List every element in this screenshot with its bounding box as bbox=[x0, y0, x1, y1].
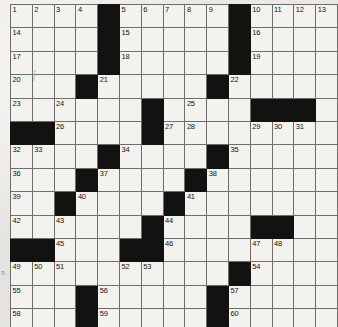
letter-cell[interactable] bbox=[54, 51, 76, 74]
letter-cell[interactable]: 45 bbox=[54, 238, 76, 261]
letter-cell[interactable] bbox=[163, 51, 185, 74]
letter-cell[interactable] bbox=[163, 28, 185, 51]
letter-cell[interactable] bbox=[207, 51, 229, 74]
letter-cell[interactable] bbox=[32, 215, 54, 238]
letter-cell[interactable] bbox=[54, 145, 76, 168]
letter-cell[interactable]: 28 bbox=[185, 121, 207, 144]
letter-cell[interactable]: 19 bbox=[250, 51, 272, 74]
letter-cell[interactable] bbox=[207, 121, 229, 144]
letter-cell[interactable] bbox=[32, 168, 54, 191]
letter-cell[interactable] bbox=[98, 98, 120, 121]
letter-cell[interactable]: 5 bbox=[119, 5, 141, 28]
letter-cell[interactable]: 11 bbox=[272, 5, 294, 28]
letter-cell[interactable]: 14 bbox=[11, 28, 33, 51]
letter-cell[interactable]: 50 bbox=[32, 262, 54, 285]
letter-cell[interactable] bbox=[316, 98, 338, 121]
letter-cell[interactable] bbox=[207, 98, 229, 121]
letter-cell[interactable] bbox=[32, 309, 54, 327]
letter-cell[interactable] bbox=[250, 285, 272, 308]
letter-cell[interactable]: 24 bbox=[54, 98, 76, 121]
letter-cell[interactable]: 20 bbox=[11, 75, 33, 98]
letter-cell[interactable]: 49 bbox=[11, 262, 33, 285]
letter-cell[interactable]: 56 bbox=[98, 285, 120, 308]
letter-cell[interactable] bbox=[119, 215, 141, 238]
letter-cell[interactable]: 18 bbox=[119, 51, 141, 74]
letter-cell[interactable]: 8 bbox=[185, 5, 207, 28]
letter-cell[interactable]: 55 bbox=[11, 285, 33, 308]
letter-cell[interactable]: 3 bbox=[54, 5, 76, 28]
letter-cell[interactable] bbox=[294, 262, 316, 285]
letter-cell[interactable] bbox=[185, 145, 207, 168]
letter-cell[interactable] bbox=[316, 75, 338, 98]
letter-cell[interactable] bbox=[119, 75, 141, 98]
letter-cell[interactable]: 42 bbox=[11, 215, 33, 238]
letter-cell[interactable] bbox=[163, 98, 185, 121]
letter-cell[interactable] bbox=[228, 121, 250, 144]
letter-cell[interactable]: 39 bbox=[11, 192, 33, 215]
letter-cell[interactable] bbox=[54, 75, 76, 98]
letter-cell[interactable]: 31 bbox=[294, 121, 316, 144]
letter-cell[interactable] bbox=[119, 309, 141, 327]
letter-cell[interactable] bbox=[316, 238, 338, 261]
letter-cell[interactable] bbox=[119, 121, 141, 144]
letter-cell[interactable] bbox=[316, 285, 338, 308]
letter-cell[interactable] bbox=[163, 262, 185, 285]
letter-cell[interactable] bbox=[54, 168, 76, 191]
letter-cell[interactable] bbox=[207, 215, 229, 238]
letter-cell[interactable]: 29 bbox=[250, 121, 272, 144]
letter-cell[interactable] bbox=[294, 168, 316, 191]
letter-cell[interactable] bbox=[163, 309, 185, 327]
letter-cell[interactable]: 26 bbox=[54, 121, 76, 144]
letter-cell[interactable]: 46 bbox=[163, 238, 185, 261]
letter-cell[interactable] bbox=[141, 28, 163, 51]
letter-cell[interactable] bbox=[163, 75, 185, 98]
letter-cell[interactable] bbox=[207, 28, 229, 51]
letter-cell[interactable]: 30 bbox=[272, 121, 294, 144]
letter-cell[interactable] bbox=[316, 51, 338, 74]
letter-cell[interactable] bbox=[294, 309, 316, 327]
letter-cell[interactable] bbox=[98, 262, 120, 285]
letter-cell[interactable] bbox=[76, 51, 98, 74]
letter-cell[interactable] bbox=[316, 309, 338, 327]
letter-cell[interactable] bbox=[250, 309, 272, 327]
letter-cell[interactable] bbox=[228, 98, 250, 121]
letter-cell[interactable] bbox=[185, 285, 207, 308]
letter-cell[interactable]: 51 bbox=[54, 262, 76, 285]
letter-cell[interactable]: 44 bbox=[163, 215, 185, 238]
letter-cell[interactable] bbox=[54, 309, 76, 327]
letter-cell[interactable]: 7 bbox=[163, 5, 185, 28]
letter-cell[interactable]: 9 bbox=[207, 5, 229, 28]
letter-cell[interactable]: 36 bbox=[11, 168, 33, 191]
letter-cell[interactable] bbox=[163, 168, 185, 191]
letter-cell[interactable] bbox=[32, 285, 54, 308]
letter-cell[interactable]: 60 bbox=[228, 309, 250, 327]
letter-cell[interactable] bbox=[98, 238, 120, 261]
letter-cell[interactable] bbox=[250, 192, 272, 215]
letter-cell[interactable] bbox=[98, 215, 120, 238]
letter-cell[interactable] bbox=[141, 145, 163, 168]
letter-cell[interactable] bbox=[32, 28, 54, 51]
letter-cell[interactable] bbox=[272, 168, 294, 191]
letter-cell[interactable] bbox=[141, 168, 163, 191]
letter-cell[interactable] bbox=[119, 168, 141, 191]
letter-cell[interactable] bbox=[98, 121, 120, 144]
letter-cell[interactable] bbox=[185, 28, 207, 51]
letter-cell[interactable] bbox=[54, 28, 76, 51]
letter-cell[interactable]: 23 bbox=[11, 98, 33, 121]
letter-cell[interactable]: 2 bbox=[32, 5, 54, 28]
letter-cell[interactable]: 37 bbox=[98, 168, 120, 191]
letter-cell[interactable] bbox=[141, 75, 163, 98]
letter-cell[interactable] bbox=[76, 98, 98, 121]
letter-cell[interactable] bbox=[76, 28, 98, 51]
letter-cell[interactable] bbox=[207, 262, 229, 285]
letter-cell[interactable]: 27 bbox=[163, 121, 185, 144]
letter-cell[interactable]: 32 bbox=[11, 145, 33, 168]
letter-cell[interactable] bbox=[32, 51, 54, 74]
letter-cell[interactable]: 15 bbox=[119, 28, 141, 51]
letter-cell[interactable] bbox=[294, 51, 316, 74]
letter-cell[interactable]: 59 bbox=[98, 309, 120, 327]
letter-cell[interactable]: 48 bbox=[272, 238, 294, 261]
letter-cell[interactable]: 22 bbox=[228, 75, 250, 98]
letter-cell[interactable]: 12 bbox=[294, 5, 316, 28]
letter-cell[interactable] bbox=[294, 28, 316, 51]
